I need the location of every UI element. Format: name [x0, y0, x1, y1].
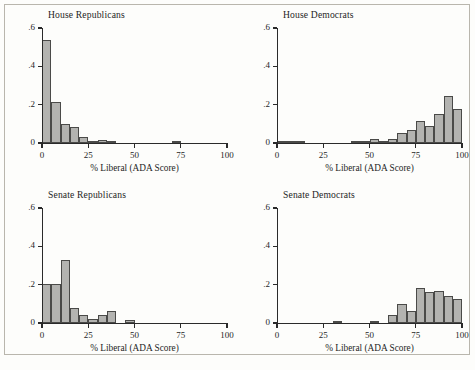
y-tick [38, 66, 42, 67]
histogram-bar [434, 291, 443, 323]
y-tick-label: 0 [10, 317, 35, 327]
plot-area: 0.2.4.60255075100% Liberal (ADA Score) [277, 208, 462, 323]
x-tick-label: 0 [262, 330, 292, 340]
x-tick-label: 75 [166, 150, 196, 160]
y-tick-label: .6 [245, 202, 270, 212]
histogram-bar [70, 308, 79, 323]
histogram-panel: House Democrats0.2.4.60255075100% Libera… [241, 6, 471, 181]
x-tick [323, 324, 324, 328]
y-tick-label: .2 [245, 279, 270, 289]
x-tick [461, 144, 462, 148]
y-tick [273, 207, 277, 208]
histogram-bar [397, 304, 406, 323]
histogram-bar [407, 130, 416, 143]
y-tick-label: 0 [245, 317, 270, 327]
x-tick-label: 50 [355, 150, 385, 160]
x-tick-label: 75 [166, 330, 196, 340]
y-tick-label: .2 [10, 99, 35, 109]
x-tick-label: 25 [73, 330, 103, 340]
y-tick [273, 27, 277, 28]
x-tick-label: 100 [212, 150, 242, 160]
histogram-bar [444, 296, 453, 323]
x-tick [134, 324, 135, 328]
y-tick [273, 104, 277, 105]
histogram-bar [425, 126, 434, 143]
y-tick-label: 0 [10, 137, 35, 147]
x-tick [180, 324, 181, 328]
plot-area: 0.2.4.60255075100% Liberal (ADA Score) [42, 28, 227, 143]
histogram-panel: Senate Democrats0.2.4.60255075100% Liber… [241, 186, 471, 361]
y-axis-line [277, 208, 278, 323]
y-axis-line [42, 28, 43, 143]
x-tick [369, 324, 370, 328]
histogram-bar [51, 284, 60, 323]
panel-title: Senate Republicans [48, 189, 126, 200]
histogram-bar [61, 124, 70, 143]
x-axis-title: % Liberal (ADA Score) [277, 163, 462, 173]
x-tick [415, 144, 416, 148]
x-tick-label: 0 [27, 150, 57, 160]
x-axis-title: % Liberal (ADA Score) [42, 343, 227, 353]
x-tick-label: 50 [120, 150, 150, 160]
x-tick-label: 100 [447, 150, 475, 160]
y-tick [38, 207, 42, 208]
y-tick-label: .6 [10, 22, 35, 32]
histogram-bar [416, 121, 425, 143]
histogram-bar [397, 133, 406, 143]
y-tick-label: .6 [245, 22, 270, 32]
y-tick [38, 104, 42, 105]
figure-container: House Republicans0.2.4.60255075100% Libe… [0, 0, 475, 370]
y-tick-label: .4 [245, 60, 270, 70]
histogram-bar [79, 315, 88, 323]
x-tick-label: 25 [308, 330, 338, 340]
histogram-bar [434, 114, 443, 143]
x-tick [180, 144, 181, 148]
x-tick [41, 144, 42, 148]
y-tick-label: .4 [245, 240, 270, 250]
histogram-bar [98, 315, 107, 323]
histogram-bar [70, 127, 79, 143]
x-tick [88, 144, 89, 148]
x-tick-label: 0 [27, 330, 57, 340]
x-tick [461, 324, 462, 328]
x-tick [88, 324, 89, 328]
panel-title: House Republicans [48, 9, 125, 20]
plot-area: 0.2.4.60255075100% Liberal (ADA Score) [42, 208, 227, 323]
x-tick-label: 100 [447, 330, 475, 340]
x-tick [369, 144, 370, 148]
x-tick-label: 100 [212, 330, 242, 340]
x-tick-label: 50 [120, 330, 150, 340]
histogram-bar [61, 260, 70, 323]
x-tick [226, 144, 227, 148]
x-tick [134, 144, 135, 148]
y-tick [38, 27, 42, 28]
histogram-bar [42, 284, 51, 323]
histogram-bar [42, 40, 51, 143]
panel-title: Senate Democrats [283, 189, 355, 200]
histogram-bar [444, 96, 453, 143]
x-tick [276, 324, 277, 328]
y-tick [273, 246, 277, 247]
x-tick-label: 25 [73, 150, 103, 160]
x-tick-label: 75 [401, 150, 431, 160]
y-tick [38, 284, 42, 285]
x-tick [323, 144, 324, 148]
histogram-bar [51, 102, 60, 143]
x-tick [415, 324, 416, 328]
x-axis-title: % Liberal (ADA Score) [42, 163, 227, 173]
x-tick-label: 75 [401, 330, 431, 340]
y-tick-label: .4 [10, 60, 35, 70]
histogram-panel: Senate Republicans0.2.4.60255075100% Lib… [6, 186, 236, 361]
y-tick-label: 0 [245, 137, 270, 147]
plot-area: 0.2.4.60255075100% Liberal (ADA Score) [277, 28, 462, 143]
histogram-bar [425, 292, 434, 323]
histogram-bar [107, 311, 116, 323]
y-tick [38, 246, 42, 247]
x-tick [226, 324, 227, 328]
y-tick-label: .2 [245, 99, 270, 109]
x-tick-label: 25 [308, 150, 338, 160]
y-axis-line [42, 208, 43, 323]
y-tick-label: .4 [10, 240, 35, 250]
panel-title: House Democrats [283, 9, 354, 20]
y-tick-label: .2 [10, 279, 35, 289]
